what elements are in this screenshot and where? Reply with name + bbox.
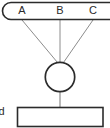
node-label-c[interactable]: C [89,4,97,16]
center-circle-node[interactable] [45,62,74,91]
edge-c-to-center [64,20,94,63]
bottom-rectangle-node[interactable] [18,108,104,127]
diagram-svg: A B C d [0,0,110,128]
node-label-a[interactable]: A [18,4,26,16]
node-label-b[interactable]: B [56,4,63,16]
diagram-canvas: A B C d [0,0,110,128]
side-label-d: d [0,105,5,117]
edge-a-to-center [22,20,58,63]
